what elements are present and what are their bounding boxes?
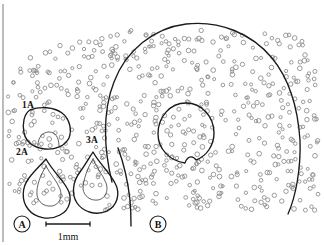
region-label-3a: 3A — [86, 135, 98, 145]
panel-a-letter: A — [18, 219, 26, 230]
figure-root: 1A 2A 3A A B 1mm — [0, 0, 324, 246]
panel-b-letter: B — [155, 219, 162, 230]
region-label-2a: 2A — [16, 147, 28, 157]
scale-bar-label: 1mm — [58, 231, 79, 242]
region-label-1a: 1A — [22, 100, 34, 110]
figure-background — [0, 0, 324, 246]
figure-canvas: 1A 2A 3A A B 1mm — [0, 0, 324, 246]
